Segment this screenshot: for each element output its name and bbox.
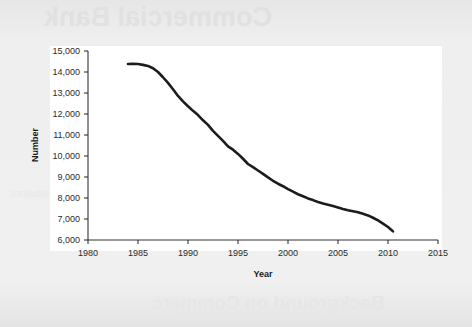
y-tick-label: 14,000	[52, 67, 80, 77]
y-axis-ticks	[84, 51, 88, 240]
y-axis-tick-labels: 6,0007,0008,0009,00010,00011,00012,00013…	[52, 46, 80, 245]
line-chart: 6,0007,0008,0009,00010,00011,00012,00013…	[0, 0, 472, 327]
scanned-page: Commercial Bank institutions Background …	[0, 0, 472, 327]
y-tick-label: 9,000	[57, 172, 80, 182]
plot-frame	[88, 51, 438, 240]
x-axis-label: Year	[253, 269, 273, 279]
y-tick-label: 12,000	[52, 109, 80, 119]
x-tick-label: 1980	[78, 248, 98, 258]
x-tick-label: 2005	[328, 248, 348, 258]
x-tick-label: 2015	[428, 248, 448, 258]
y-tick-label: 11,000	[53, 130, 80, 140]
x-axis-tick-labels: 19801985199019952000200520102015	[78, 248, 448, 258]
x-tick-label: 2010	[378, 248, 398, 258]
x-axis-ticks	[88, 240, 438, 244]
y-tick-label: 15,000	[52, 46, 80, 56]
x-tick-label: 1995	[228, 248, 248, 258]
x-tick-label: 1985	[128, 248, 148, 258]
y-tick-label: 8,000	[57, 193, 80, 203]
x-tick-label: 1990	[178, 248, 198, 258]
x-tick-label: 2000	[278, 248, 298, 258]
y-tick-label: 7,000	[57, 214, 80, 224]
data-series-line	[128, 64, 393, 232]
y-tick-label: 10,000	[52, 151, 80, 161]
y-tick-label: 13,000	[52, 88, 80, 98]
y-axis-label: Number	[30, 128, 40, 163]
y-tick-label: 6,000	[57, 235, 80, 245]
